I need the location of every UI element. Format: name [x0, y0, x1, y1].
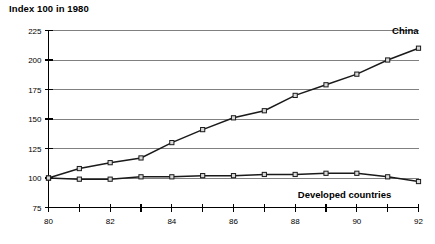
x-tick-label-90: 90 — [352, 217, 361, 226]
x-tick-label-82: 82 — [106, 217, 115, 226]
chart-container: Index 100 in 1980 75100125150175200225 8… — [0, 0, 435, 244]
line-chart-plot: 75100125150175200225 80828486889092 Chin… — [0, 0, 435, 244]
series-1-point-83 — [139, 175, 143, 179]
series-1-point-85 — [201, 174, 205, 178]
series-1-point-82 — [108, 177, 112, 181]
y-axis-tick-labels: 75100125150175200225 — [28, 27, 42, 213]
series-0-point-87 — [262, 109, 266, 113]
y-tick-label-175: 175 — [28, 86, 42, 95]
x-tick-label-92: 92 — [414, 217, 423, 226]
x-tick-label-88: 88 — [291, 217, 300, 226]
series-1-point-86 — [231, 174, 235, 178]
series-1-point-87 — [262, 172, 266, 176]
y-tick-label-125: 125 — [28, 145, 42, 154]
series-1-point-88 — [293, 172, 297, 176]
series-0-point-82 — [108, 161, 112, 165]
series-0-point-86 — [231, 116, 235, 120]
gridlines — [49, 31, 419, 179]
series-0-point-88 — [293, 93, 297, 97]
series-0-point-85 — [201, 128, 205, 132]
y-tick-label-200: 200 — [28, 56, 42, 65]
series-0-point-91 — [386, 58, 390, 62]
series-1-point-92 — [416, 179, 420, 183]
y-tick-label-225: 225 — [28, 27, 42, 36]
series-1-point-89 — [324, 171, 328, 175]
series-1-point-91 — [386, 175, 390, 179]
series-0-point-81 — [77, 166, 81, 170]
x-axis-tick-labels: 80828486889092 — [44, 217, 423, 226]
x-tick-label-80: 80 — [44, 217, 53, 226]
series-line-0 — [49, 48, 419, 178]
series-0-point-84 — [170, 141, 174, 145]
series-0-point-83 — [139, 156, 143, 160]
series-1-point-90 — [355, 171, 359, 175]
series-annotation-developed-countries: Developed countries — [298, 189, 391, 200]
y-tick-label-100: 100 — [28, 174, 42, 183]
y-tick-label-150: 150 — [28, 115, 42, 124]
x-tick-label-86: 86 — [229, 217, 238, 226]
series-0-point-90 — [355, 72, 359, 76]
y-tick-label-75: 75 — [33, 204, 42, 213]
series-0-point-92 — [416, 46, 420, 50]
series-1-point-84 — [170, 175, 174, 179]
series-1-point-80 — [46, 176, 50, 180]
series-annotation-china: China — [392, 25, 419, 36]
series-0-point-89 — [324, 83, 328, 87]
series-1-point-81 — [77, 177, 81, 181]
x-tick-label-84: 84 — [167, 217, 176, 226]
data-series — [46, 46, 420, 184]
